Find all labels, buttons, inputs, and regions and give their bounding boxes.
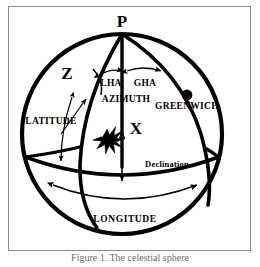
label-longitude: LONGITUDE (93, 214, 156, 224)
label-latitude: LATITUDE (25, 116, 76, 126)
longitude-arc (53, 185, 197, 199)
label-pole: P (117, 12, 127, 31)
greenwich-dot (182, 90, 193, 101)
celestial-sphere-diagram: P Z X LHA GHA AZIMUTH GREENWICH LATITUDE… (9, 7, 250, 250)
label-greenwich-hour-angle: GHA (134, 78, 157, 88)
parallel-latitude-left (26, 147, 81, 157)
diagram-frame: P Z X LHA GHA AZIMUTH GREENWICH LATITUDE… (8, 6, 251, 251)
star-marker (93, 127, 125, 154)
label-azimuth: AZIMUTH (102, 94, 151, 104)
gha-arc (127, 68, 161, 71)
figure-caption: Figure 1. The celestial sphere (0, 252, 260, 263)
figure-container: P Z X LHA GHA AZIMUTH GREENWICH LATITUDE… (0, 0, 260, 267)
label-zenith: Z (61, 64, 72, 83)
label-declination: Declination (145, 159, 189, 169)
label-star: X (130, 119, 143, 138)
label-local-hour-angle: LHA (100, 78, 122, 88)
label-greenwich: GREENWICH (155, 101, 219, 111)
